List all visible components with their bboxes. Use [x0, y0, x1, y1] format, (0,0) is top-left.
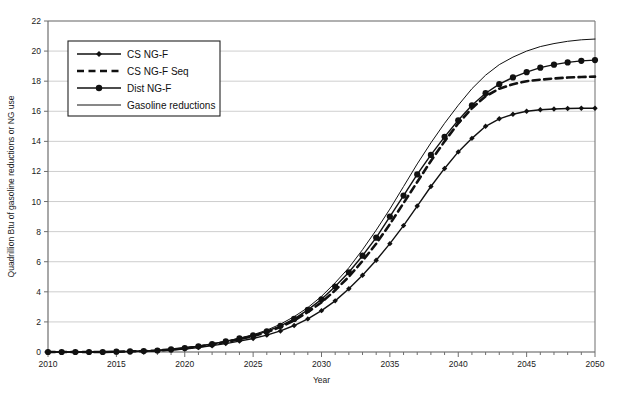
data-point: [565, 59, 571, 65]
data-point: [537, 65, 543, 71]
data-point: [318, 296, 324, 302]
data-point: [551, 62, 557, 68]
legend-marker-2: [96, 85, 102, 91]
y-tick-label: 18: [32, 76, 42, 86]
data-point: [428, 152, 434, 158]
legend-label-2: Dist NG-F: [127, 83, 171, 94]
y-tick-label: 6: [36, 257, 41, 267]
y-tick-label: 8: [36, 227, 41, 237]
legend-label-1: CS NG-F Seq: [127, 66, 189, 77]
data-point: [414, 171, 420, 177]
x-tick-label: 2040: [449, 359, 468, 369]
line-chart: 201020152020202520302035204020452050 024…: [0, 0, 620, 397]
x-tick-label: 2010: [39, 359, 58, 369]
y-tick-label: 14: [32, 136, 42, 146]
y-tick-label: 0: [36, 347, 41, 357]
x-tick-label: 2015: [107, 359, 126, 369]
chart-legend: CS NG-FCS NG-F SeqDist NG-FGasoline redu…: [68, 41, 220, 116]
data-point: [592, 57, 598, 63]
data-point: [441, 134, 447, 140]
y-axis-title: Quadrillion Btu of gasoline reductions o…: [6, 95, 16, 277]
data-point: [524, 69, 530, 75]
legend-label-3: Gasoline reductions: [127, 100, 215, 111]
x-tick-label: 2025: [244, 359, 263, 369]
x-tick-label: 2045: [517, 359, 536, 369]
data-point: [359, 253, 365, 259]
x-tick-label: 2050: [586, 359, 605, 369]
data-point: [455, 117, 461, 123]
y-tick-label: 12: [32, 166, 42, 176]
legend-label-0: CS NG-F: [127, 49, 168, 60]
x-axis-title: Year: [313, 375, 330, 385]
data-point: [373, 235, 379, 241]
y-tick-label: 20: [32, 46, 42, 56]
data-point: [483, 90, 489, 96]
x-tick-label: 2030: [312, 359, 331, 369]
data-point: [387, 213, 393, 219]
data-point: [496, 81, 502, 87]
y-tick-label: 16: [32, 106, 42, 116]
data-point: [469, 102, 475, 108]
data-point: [510, 74, 516, 80]
chart-canvas: 201020152020202520302035204020452050 024…: [0, 0, 620, 397]
data-point: [400, 192, 406, 198]
y-tick-label: 4: [36, 287, 41, 297]
data-point: [578, 58, 584, 64]
y-tick-label: 2: [36, 317, 41, 327]
x-tick-label: 2020: [175, 359, 194, 369]
y-tick-label: 22: [32, 16, 42, 26]
x-tick-label: 2035: [380, 359, 399, 369]
y-tick-label: 10: [32, 197, 42, 207]
